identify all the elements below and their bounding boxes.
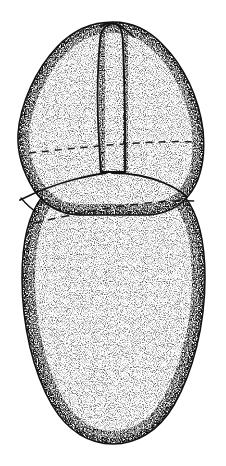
upper-lobe-group [18,22,204,215]
left-shoulder-fold [21,198,38,213]
keel-left-shading [100,30,104,172]
specimen-drawing [0,0,226,466]
upper-lobe-stipple [18,22,204,215]
figure-root [0,0,226,466]
